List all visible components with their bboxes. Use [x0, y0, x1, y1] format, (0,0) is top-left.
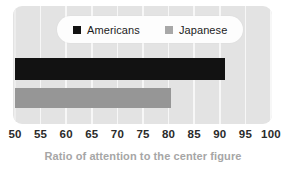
x-tick-label-65: 65	[85, 128, 98, 140]
legend-entry-japanese: Japanese	[165, 24, 228, 36]
x-tick-label-75: 75	[136, 128, 149, 140]
x-tick-label-60: 60	[60, 128, 73, 140]
x-axis-tick-labels: 50556065707580859095100	[0, 128, 286, 143]
x-tick-label-95: 95	[239, 128, 252, 140]
x-tick-label-55: 55	[34, 128, 47, 140]
chart-legend: Americans Japanese	[57, 16, 243, 43]
bar-japanese	[15, 88, 171, 108]
bar-americans	[15, 58, 225, 80]
legend-entry-americans: Americans	[73, 24, 140, 36]
x-tick-label-70: 70	[111, 128, 124, 140]
legend-swatch-icon-americans	[73, 26, 81, 34]
x-tick-label-85: 85	[188, 128, 201, 140]
bar-chart: Americans Japanese 505560657075808590951…	[0, 0, 286, 171]
gridline-100	[270, 6, 272, 124]
x-axis-title: Ratio of attention to the center figure	[0, 150, 286, 162]
x-tick-label-80: 80	[162, 128, 175, 140]
legend-swatch-icon-japanese	[165, 26, 173, 34]
legend-label-japanese: Japanese	[179, 24, 228, 36]
x-tick-label-50: 50	[8, 128, 21, 140]
legend-label-americans: Americans	[87, 24, 140, 36]
x-tick-label-100: 100	[261, 128, 281, 140]
gridline-95	[245, 6, 247, 124]
x-tick-label-90: 90	[213, 128, 226, 140]
